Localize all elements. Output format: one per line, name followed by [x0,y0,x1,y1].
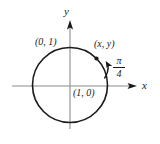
unit-circle-diagram [0,0,160,144]
x-axis-label: x [142,80,147,91]
label-point-one-zero: (1, 0) [73,88,95,98]
point-xy-marker [94,56,98,60]
angle-denominator: 4 [113,68,125,79]
angle-numerator: π [113,56,125,67]
label-point-zero-one: (0, 1) [35,37,57,47]
angle-label-pi-over-4: π 4 [113,56,125,79]
unit-circle-figure: y x (0, 1) (1, 0) (x, y) π 4 [0,0,160,144]
angle-arc-arrowhead [106,61,113,68]
label-point-xy: (x, y) [94,39,115,49]
y-axis-label: y [64,6,69,17]
